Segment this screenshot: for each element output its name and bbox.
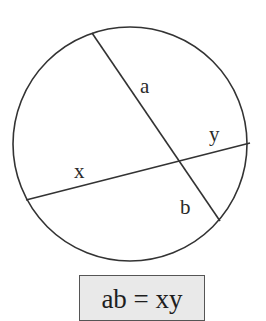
label-x: x xyxy=(74,159,85,183)
chord-ab xyxy=(92,33,220,221)
label-a: a xyxy=(140,74,150,98)
chord-xy xyxy=(26,143,250,200)
label-b: b xyxy=(180,195,191,219)
formula-text: ab = xy xyxy=(101,284,182,315)
label-y: y xyxy=(209,122,220,146)
formula-box: ab = xy xyxy=(79,275,205,321)
intersecting-chords-diagram: a y x b xyxy=(0,0,266,270)
